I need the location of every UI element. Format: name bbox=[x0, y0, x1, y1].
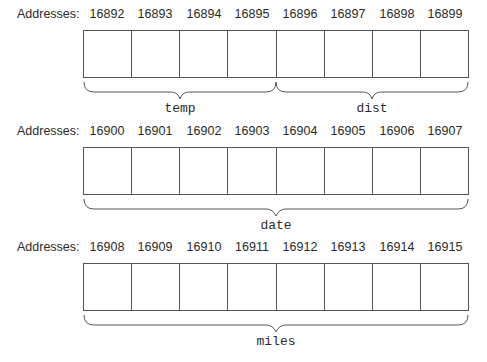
variable-label-miles: miles bbox=[236, 334, 316, 349]
memory-row-3: Addresses: 16908 16909 16910 16911 16912… bbox=[0, 233, 487, 351]
memory-row-2: Addresses: 16900 16901 16902 16903 16904… bbox=[0, 117, 487, 235]
variable-label-dist: dist bbox=[332, 101, 412, 116]
brace-icon bbox=[0, 0, 487, 118]
variable-label-date: date bbox=[236, 218, 316, 233]
variable-label-temp: temp bbox=[140, 101, 220, 116]
memory-row-1: Addresses: 16892 16893 16894 16895 16896… bbox=[0, 0, 487, 118]
